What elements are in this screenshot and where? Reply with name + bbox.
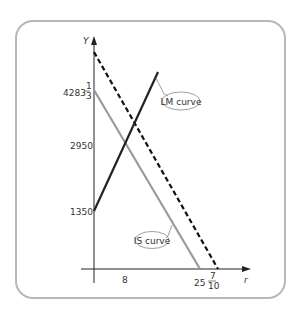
y-axis-arrow-icon (91, 36, 97, 45)
svg-text:LM curve: LM curve (161, 97, 202, 107)
svg-text:1: 1 (86, 81, 92, 91)
svg-text:10: 10 (208, 281, 220, 291)
y-tick-1350: 1350 (70, 207, 93, 217)
is-lm-chart: Y r 4283 1 3 2950 1350 8 25 7 10 LM curv… (0, 0, 304, 313)
y-tick-2950: 2950 (70, 141, 93, 151)
x-axis: r (81, 266, 251, 285)
x-axis-label: r (244, 275, 249, 285)
x-tick-8: 8 (122, 275, 128, 285)
lm-curve-line (94, 72, 158, 211)
svg-text:25: 25 (194, 278, 205, 288)
is-curve-callout: IS curve (134, 225, 172, 249)
y-axis: Y (83, 36, 97, 283)
svg-text:IS curve: IS curve (134, 236, 171, 246)
x-axis-arrow-icon (242, 266, 251, 272)
y-tick-4283: 4283 1 3 (63, 81, 92, 101)
svg-text:4283: 4283 (63, 88, 86, 98)
x-tick-25-7-10: 25 7 10 (194, 271, 220, 291)
svg-text:3: 3 (86, 91, 92, 101)
y-axis-label: Y (83, 36, 90, 46)
lm-curve-callout: LM curve (156, 78, 202, 110)
svg-text:7: 7 (210, 271, 216, 281)
